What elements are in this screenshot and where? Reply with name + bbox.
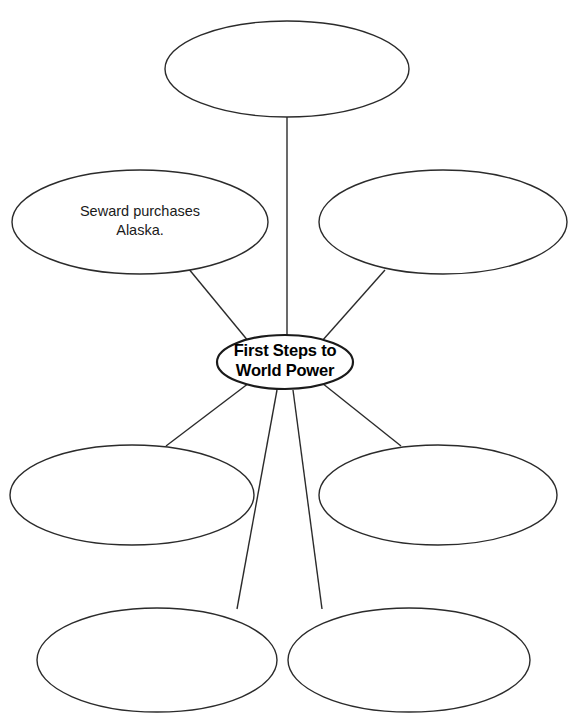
node-bottom-left-shape[interactable] <box>37 608 277 712</box>
node-upper-right[interactable] <box>319 170 567 274</box>
node-upper-left-label-line-0: Seward purchases <box>80 203 200 219</box>
node-top[interactable] <box>165 21 409 117</box>
connector-bottom-right <box>293 390 322 609</box>
center-node-label-line-0: First Steps to <box>234 341 337 359</box>
center-node[interactable]: First Steps toWorld Power <box>217 335 353 389</box>
node-bottom-left[interactable] <box>37 608 277 712</box>
web-diagram: Seward purchasesAlaska. First Steps toWo… <box>0 0 575 726</box>
connector-upper-left <box>188 268 249 342</box>
node-mid-left-shape[interactable] <box>10 445 254 545</box>
node-upper-left[interactable]: Seward purchasesAlaska. <box>12 170 268 274</box>
connector-mid-right <box>322 383 401 446</box>
connector-upper-right <box>322 270 385 341</box>
connector-mid-left <box>166 383 249 446</box>
node-bottom-right-shape[interactable] <box>288 608 530 712</box>
node-mid-right[interactable] <box>319 445 557 545</box>
node-bottom-right[interactable] <box>288 608 530 712</box>
node-mid-right-shape[interactable] <box>319 445 557 545</box>
node-mid-left[interactable] <box>10 445 254 545</box>
node-upper-right-shape[interactable] <box>319 170 567 274</box>
diagram-canvas: Seward purchasesAlaska. First Steps toWo… <box>0 0 575 726</box>
center-node-label-line-1: World Power <box>236 361 335 379</box>
center-node-group: First Steps toWorld Power <box>217 335 353 389</box>
node-upper-left-label-line-1: Alaska. <box>116 222 164 238</box>
node-top-shape[interactable] <box>165 21 409 117</box>
